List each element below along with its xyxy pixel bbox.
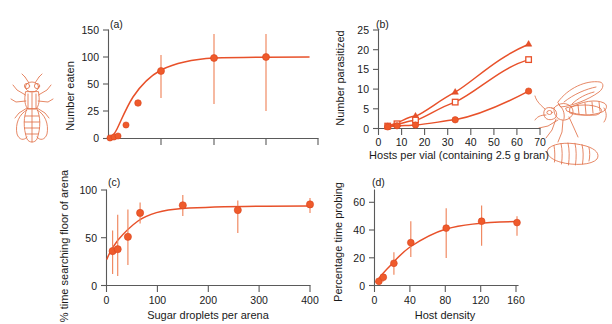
panel-c-y-ticklabels: 100 50 0 — [79, 184, 97, 292]
panel-a-x-ticks — [161, 139, 318, 146]
y-tick-15: 15 — [357, 63, 369, 75]
panel-d-tag: (d) — [372, 176, 385, 188]
panel-c-ylabel: % time searching floor of arena — [58, 169, 70, 322]
panel-b-tag: (b) — [376, 18, 389, 30]
y-tick-50: 50 — [85, 232, 97, 244]
y-tick-25: 25 — [87, 105, 99, 117]
panel-a-ylabel: Number eaten — [64, 61, 76, 131]
panel-d-points — [376, 218, 521, 285]
x-tick-120: 120 — [472, 294, 490, 306]
panel-b-x-ticklabels: 0 10 20 30 40 50 60 70 — [376, 136, 546, 148]
panel-c-x-ticklabels: 0 100 200 300 400 — [104, 294, 319, 306]
x-tick-200: 200 — [200, 294, 218, 306]
panel-a-y-ticklabels: 150 100 50 25 0 — [81, 24, 99, 144]
panel-a-points — [107, 54, 270, 142]
panel-c-y-ticks — [101, 190, 107, 286]
panel-c-xlabel: Sugar droplets per arena — [147, 309, 270, 321]
x-tick-10: 10 — [396, 136, 408, 148]
y-tick-60: 60 — [353, 196, 365, 208]
panel-d-x-ticks — [375, 286, 517, 293]
panel-d-xlabel: Host density — [415, 309, 476, 321]
x-tick-20: 20 — [419, 136, 431, 148]
x-tick-40: 40 — [465, 136, 477, 148]
panel-a-curve — [109, 57, 309, 138]
panel-b-x-ticks — [379, 129, 541, 136]
panel-a-y-ticks — [103, 30, 109, 139]
panel-b-number-parasitized: Number parasitized (b) 25 20 15 10 5 0 — [332, 8, 564, 160]
x-tick-70: 70 — [534, 136, 546, 148]
panel-b-y-ticklabels: 25 20 15 10 5 0 — [357, 24, 369, 135]
panel-d-y-ticks — [369, 202, 375, 285]
panel-d-x-ticklabels: 0 40 80 120 160 — [372, 294, 525, 306]
panel-b-xlabel: Hosts per vial (containing 2.5 g bran) — [369, 149, 549, 161]
y-tick-50: 50 — [87, 78, 99, 90]
y-tick-150: 150 — [81, 24, 99, 36]
panel-c-tag: (c) — [108, 176, 120, 188]
y-tick-20: 20 — [357, 44, 369, 56]
x-tick-80: 80 — [439, 294, 451, 306]
x-tick-0: 0 — [104, 294, 110, 306]
y-tick-10: 10 — [357, 83, 369, 95]
x-tick-100: 100 — [149, 294, 167, 306]
fruit-fly-illustration — [6, 68, 58, 154]
x-tick-60: 60 — [511, 136, 523, 148]
x-tick-400: 400 — [301, 294, 319, 306]
panel-d-y-ticklabels: 60 40 20 0 — [353, 196, 365, 291]
y-tick-25: 25 — [357, 24, 369, 36]
panel-a-errorbars — [161, 34, 266, 111]
x-tick-0: 0 — [376, 136, 382, 148]
y-tick-100: 100 — [81, 51, 99, 63]
x-tick-40: 40 — [404, 294, 416, 306]
x-tick-160: 160 — [507, 294, 525, 306]
panel-b-curve-middle — [388, 60, 529, 127]
panel-d-ylabel: Percentage time probing — [332, 182, 344, 302]
y-tick-0: 0 — [363, 123, 369, 135]
panel-c-x-ticks — [107, 286, 311, 293]
figure-container: Number eaten (a) 150 100 50 25 0 — [0, 0, 612, 324]
panel-d-time-probing: Percentage time probing (d) 60 40 20 0 — [330, 168, 542, 322]
panel-c-time-searching: % time searching floor of arena (c) 100 … — [56, 168, 322, 322]
y-tick-0: 0 — [93, 132, 99, 144]
panel-d-errorbars — [379, 205, 517, 284]
x-tick-50: 50 — [488, 136, 500, 148]
y-tick-0: 0 — [91, 280, 97, 292]
x-tick-30: 30 — [442, 136, 454, 148]
panel-b-y-ticks — [373, 30, 379, 129]
panel-b-ylabel: Number parasitized — [334, 30, 346, 125]
y-tick-5: 5 — [363, 103, 369, 115]
y-tick-0: 0 — [359, 280, 365, 292]
y-tick-40: 40 — [353, 224, 365, 236]
panel-a-tag: (a) — [110, 18, 123, 30]
y-tick-100: 100 — [79, 184, 97, 196]
x-tick-300: 300 — [250, 294, 268, 306]
panel-a-number-eaten: Number eaten (a) 150 100 50 25 0 — [62, 8, 322, 160]
x-tick-0: 0 — [372, 294, 378, 306]
y-tick-20: 20 — [353, 252, 365, 264]
panel-b-curve-upper — [388, 44, 529, 126]
